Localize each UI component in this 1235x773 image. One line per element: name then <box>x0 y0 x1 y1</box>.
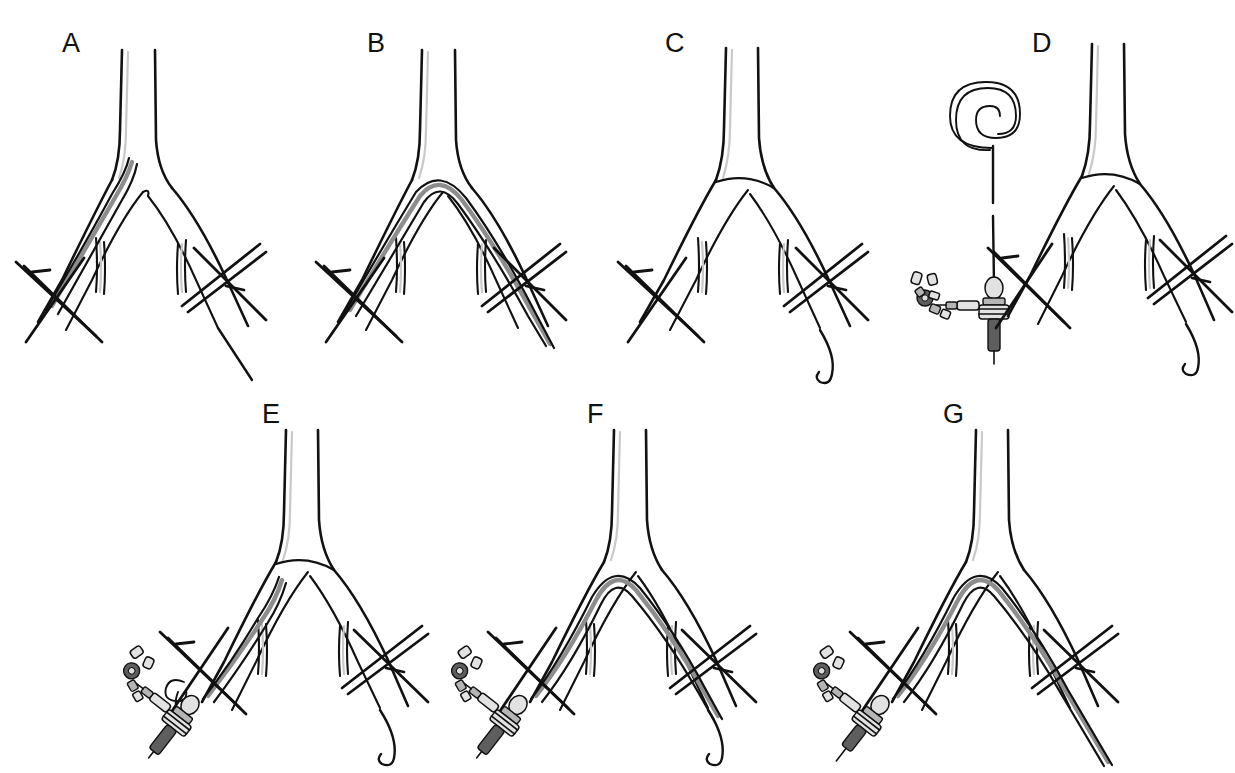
catheter-in-vessel-a <box>46 158 137 314</box>
vessel-loop-right-e <box>342 626 428 702</box>
panel-f <box>438 420 798 770</box>
vessel-loop-right-a <box>182 244 266 320</box>
vessel-loop-left-b <box>316 258 402 342</box>
vessel-loop-left-a <box>16 258 102 342</box>
vessel-loop-right-f <box>670 626 756 702</box>
guidewire-curl-e <box>379 710 395 765</box>
vessel-loop-right-c <box>784 244 868 320</box>
panel-d <box>900 26 1235 366</box>
guidewire-coil-d <box>950 82 1020 150</box>
figure-canvas: A B C D E F G <box>0 0 1235 773</box>
guidewire-curl-f <box>707 710 723 765</box>
vessel-tree-g <box>892 430 1098 710</box>
vessel-loop-left-c <box>618 258 704 342</box>
hemostatic-valve-device-d <box>910 271 1009 364</box>
vessel-loop-right-g <box>1032 626 1118 702</box>
guidewire-shaft-d <box>993 146 994 284</box>
panel-e <box>110 420 470 770</box>
vessel-tree-a <box>38 50 248 330</box>
guidewire-curl-c <box>817 330 833 383</box>
catheter-crossing-bifurcation-b <box>344 180 554 348</box>
guidewire-curl-d <box>1183 324 1199 375</box>
catheter-through-and-out-g <box>893 576 1112 766</box>
vessel-loop-right-d <box>1148 236 1232 312</box>
panel-a <box>0 30 320 360</box>
vessel-tree-e <box>202 430 408 710</box>
vessel-tree-c <box>640 48 850 330</box>
panel-c <box>598 30 918 360</box>
vessel-tree-f <box>530 430 736 710</box>
panel-b <box>300 30 620 360</box>
guidewire-tail-a <box>218 328 252 380</box>
panel-g <box>790 420 1160 773</box>
